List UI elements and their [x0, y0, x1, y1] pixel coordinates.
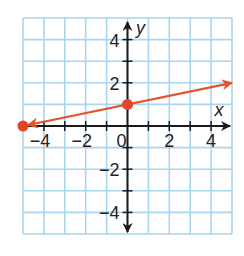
x-tick-label: 4 — [206, 131, 216, 151]
y-tick-label: 2 — [109, 74, 119, 94]
y-tick-label: −4 — [99, 203, 120, 223]
axes — [27, 22, 230, 232]
y-axis-label: y — [134, 18, 146, 38]
x-tick-label: 2 — [164, 131, 174, 151]
data-point — [18, 121, 29, 132]
data-series — [18, 83, 233, 132]
y-tick-label: −2 — [99, 160, 120, 180]
coordinate-plane: −4−202442−2−4xy — [0, 0, 244, 256]
x-tick-label: 0 — [116, 131, 126, 151]
data-point — [122, 99, 133, 110]
x-tick-label: −2 — [71, 131, 92, 151]
y-tick-label: 4 — [109, 31, 119, 51]
x-tick-label: −4 — [30, 131, 51, 151]
x-axis-label: x — [214, 100, 225, 120]
